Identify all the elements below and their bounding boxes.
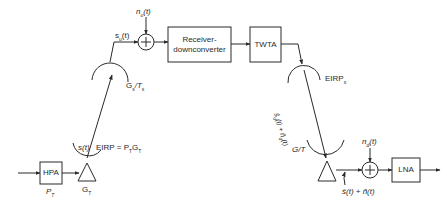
eirp-sat-label: EIRPs <box>325 75 346 85</box>
rx-antenna-triangle-icon <box>318 161 336 181</box>
received-signal-pointer <box>344 172 345 185</box>
tx-gain-label: GT <box>82 186 91 196</box>
earth-rx-dish-icon <box>307 140 344 155</box>
twta-to-dish <box>281 44 302 64</box>
receiver-label-line1: Receiver- <box>182 35 216 45</box>
received-signal-label: ŝ(t) + ñ(t) <box>342 188 375 196</box>
twta-label: TWTA <box>250 27 281 62</box>
sat-g-over-t-label: Gs/Ts <box>126 82 144 92</box>
sat-rx-signal-label: su(t) <box>115 32 129 42</box>
lna-label: LNA <box>392 158 420 182</box>
eirp-tx-label: EIRP = PTGT <box>96 144 141 154</box>
hpa-power-label: PT <box>46 188 54 198</box>
hpa-label: HPA <box>40 162 62 184</box>
uplink-signal-label: s(t) <box>78 144 90 152</box>
sat-tx-dish-icon <box>288 65 320 83</box>
downlink-noise-label: nd(t) <box>362 138 377 148</box>
sat-rx-to-summer <box>110 42 138 62</box>
receiver-downconverter-label: Receiver- downconverter <box>168 27 231 62</box>
tx-antenna-triangle-icon <box>78 163 96 181</box>
receiver-label-line2: downconverter <box>173 45 225 55</box>
earth-g-over-t-label: G/T <box>292 146 305 154</box>
uplink-noise-label: nu(t) <box>136 8 151 18</box>
sat-rx-dish-icon <box>92 63 128 82</box>
downlink-path <box>304 70 326 158</box>
